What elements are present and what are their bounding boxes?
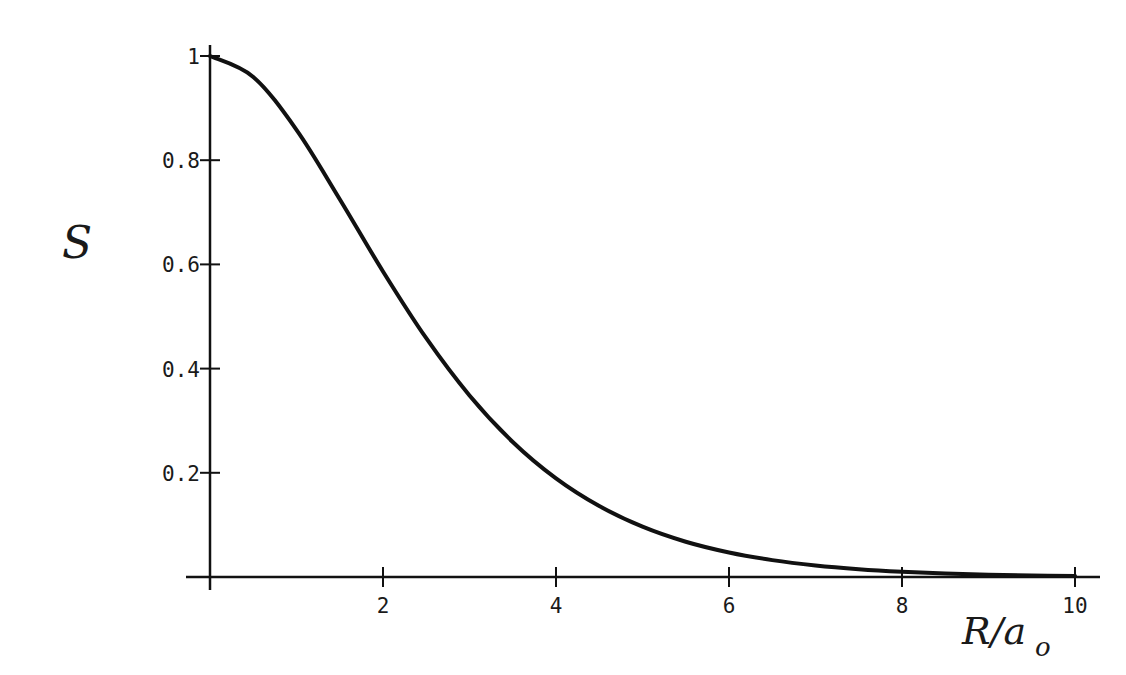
y-tick-label: 0.2 <box>162 462 200 486</box>
x-tick-label: 2 <box>377 594 390 618</box>
x-tick-label: 8 <box>896 594 909 618</box>
y-tick-label: 0.8 <box>162 149 200 173</box>
x-tick-label: 10 <box>1062 594 1087 618</box>
y-tick-label: 0.4 <box>162 358 200 382</box>
x-tick-label: 4 <box>550 594 563 618</box>
chart-canvas: 0.20.40.60.81 246810 S R/a o <box>0 0 1126 675</box>
x-tick-label: 6 <box>723 594 736 618</box>
overlap-curve <box>210 56 1075 576</box>
svg-text:R/a: R/a <box>961 609 1026 653</box>
y-tick-label: 0.6 <box>162 253 200 277</box>
y-axis-label: S <box>62 217 92 268</box>
x-axis-label: R/a o <box>961 609 1051 662</box>
svg-text:o: o <box>1035 632 1051 662</box>
y-tick-label: 1 <box>187 45 200 69</box>
y-axis: 0.20.40.60.81 <box>162 45 220 590</box>
